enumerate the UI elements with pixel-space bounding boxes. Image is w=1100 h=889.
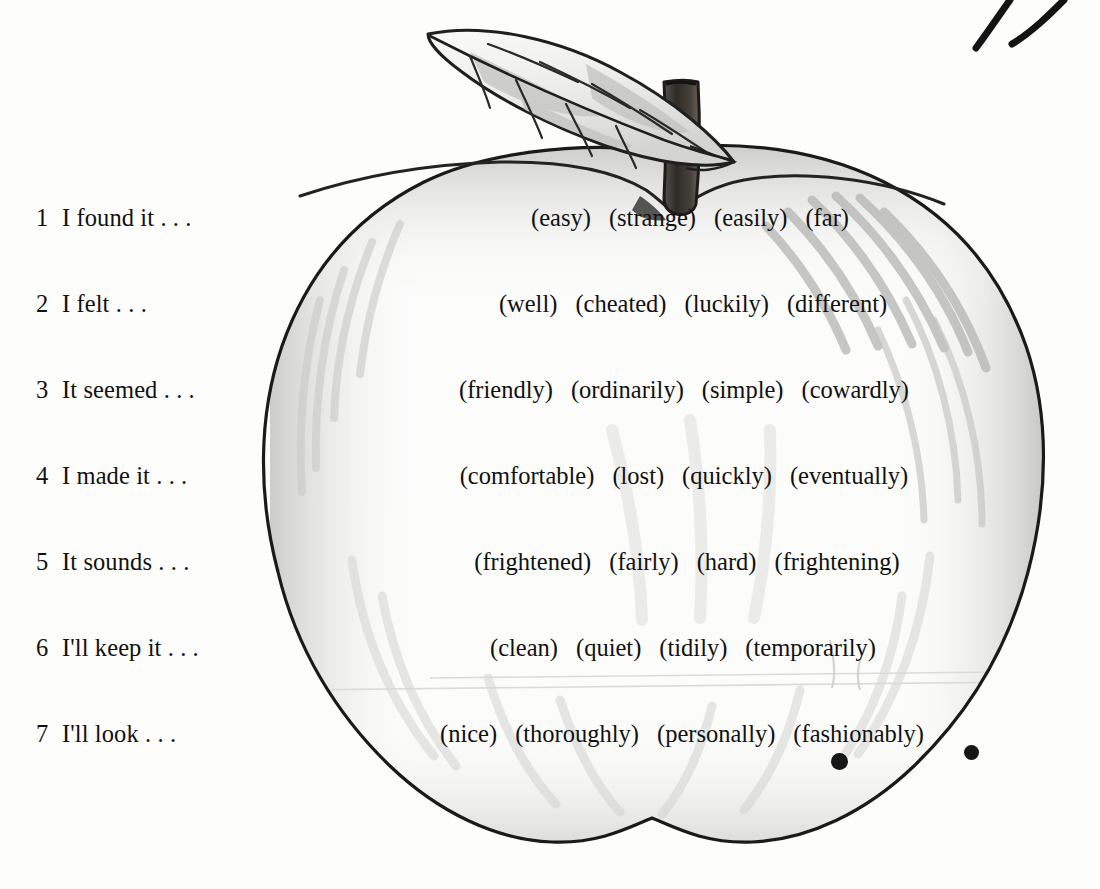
- prompt-number: 1: [36, 206, 62, 231]
- option-word[interactable]: (luckily): [685, 292, 769, 317]
- prompt-text: I'll look . . .: [62, 722, 176, 747]
- apple-leaf: [428, 30, 734, 170]
- option-word[interactable]: (easily): [714, 206, 787, 231]
- option-word[interactable]: (frightening): [775, 550, 900, 575]
- option-word[interactable]: (quiet): [576, 636, 641, 661]
- option-row-6: (clean) (quiet) (tidily) (temporarily): [300, 636, 1060, 722]
- option-word[interactable]: (fairly): [609, 550, 678, 575]
- option-word[interactable]: (lost): [612, 464, 664, 489]
- option-rows: (easy) (strange) (easily) (far) (well) (…: [300, 206, 1060, 808]
- option-word[interactable]: (tidily): [659, 636, 727, 661]
- prompt-item-5: 5 It sounds . . .: [36, 550, 286, 636]
- prompt-item-4: 4 I made it . . .: [36, 464, 286, 550]
- option-word[interactable]: (well): [499, 292, 558, 317]
- prompt-item-3: 3 It seemed . . .: [36, 378, 286, 464]
- option-word[interactable]: (comfortable): [460, 464, 595, 489]
- option-word[interactable]: (easy): [531, 206, 591, 231]
- option-word[interactable]: (nice): [440, 722, 497, 747]
- prompt-number: 3: [36, 378, 62, 403]
- prompt-item-7: 7 I'll look . . .: [36, 722, 286, 808]
- option-row-2: (well) (cheated) (luckily) (different): [300, 292, 1060, 378]
- corner-pen-marks: [976, 0, 1064, 48]
- prompt-text: It seemed . . .: [62, 378, 195, 403]
- prompt-item-6: 6 I'll keep it . . .: [36, 636, 286, 722]
- option-row-7: (nice) (thoroughly) (personally) (fashio…: [300, 722, 1060, 808]
- prompt-list: 1 I found it . . . 2 I felt . . . 3 It s…: [36, 206, 286, 808]
- option-word[interactable]: (cheated): [575, 292, 666, 317]
- prompt-text: I felt . . .: [62, 292, 147, 317]
- prompt-number: 2: [36, 292, 62, 317]
- prompt-number: 7: [36, 722, 62, 747]
- option-word[interactable]: (cowardly): [801, 378, 908, 403]
- option-word[interactable]: (temporarily): [745, 636, 876, 661]
- option-word[interactable]: (far): [805, 206, 849, 231]
- option-word[interactable]: (simple): [702, 378, 784, 403]
- option-word[interactable]: (friendly): [459, 378, 553, 403]
- option-word[interactable]: (eventually): [790, 464, 908, 489]
- option-word[interactable]: (thoroughly): [515, 722, 639, 747]
- option-word[interactable]: (frightened): [474, 550, 591, 575]
- option-word[interactable]: (quickly): [682, 464, 772, 489]
- option-word[interactable]: (fashionably): [793, 722, 924, 747]
- option-row-1: (easy) (strange) (easily) (far): [300, 206, 1060, 292]
- workbook-exercise-page: 1 I found it . . . 2 I felt . . . 3 It s…: [0, 0, 1100, 889]
- prompt-number: 4: [36, 464, 62, 489]
- option-word[interactable]: (ordinarily): [571, 378, 684, 403]
- option-word[interactable]: (clean): [490, 636, 558, 661]
- prompt-number: 6: [36, 636, 62, 661]
- prompt-text: It sounds . . .: [62, 550, 189, 575]
- option-word[interactable]: (strange): [609, 206, 696, 231]
- option-word[interactable]: (different): [787, 292, 887, 317]
- prompt-text: I'll keep it . . .: [62, 636, 199, 661]
- prompt-number: 5: [36, 550, 62, 575]
- prompt-item-2: 2 I felt . . .: [36, 292, 286, 378]
- apple-stem: [664, 81, 699, 215]
- option-word[interactable]: (personally): [657, 722, 775, 747]
- option-row-3: (friendly) (ordinarily) (simple) (coward…: [300, 378, 1060, 464]
- prompt-item-1: 1 I found it . . .: [36, 206, 286, 292]
- option-row-4: (comfortable) (lost) (quickly) (eventual…: [300, 464, 1060, 550]
- option-word[interactable]: (hard): [697, 550, 757, 575]
- option-row-5: (frightened) (fairly) (hard) (frightenin…: [300, 550, 1060, 636]
- prompt-text: I made it . . .: [62, 464, 187, 489]
- prompt-text: I found it . . .: [62, 206, 192, 231]
